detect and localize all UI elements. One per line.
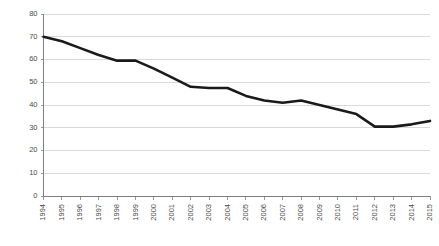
x-axis-tick-label: 2013 — [388, 204, 397, 221]
x-axis-tickmarks — [44, 196, 431, 200]
x-axis-tick-label: 1995 — [57, 204, 66, 221]
y-axis-tick-label: 80 — [29, 9, 37, 18]
x-axis-tick-label: 2006 — [259, 204, 268, 221]
x-axis-tick-label: 1996 — [75, 204, 84, 221]
chart-canvas: 01020304050607080 1994199519961997199819… — [0, 0, 439, 246]
x-axis-tick-label: 2012 — [370, 204, 379, 221]
y-axis-tick-label: 30 — [29, 123, 37, 132]
x-axis-tick-label: 2000 — [149, 204, 158, 221]
y-axis-tick-label: 0 — [33, 191, 37, 200]
x-axis-tick-label: 2015 — [425, 204, 434, 221]
x-axis-tick-label: 2011 — [351, 204, 360, 220]
x-axis-tick-label: 2005 — [241, 204, 250, 221]
x-axis-tick-label: 2007 — [278, 204, 287, 221]
x-axis-tick-label: 1999 — [131, 204, 140, 221]
x-axis-tick-label: 2008 — [296, 204, 305, 221]
gridlines — [44, 14, 431, 196]
x-axis-tick-label: 2004 — [223, 204, 232, 221]
x-axis-tick-label: 2002 — [186, 204, 195, 221]
x-axis-tick-label: 1998 — [112, 204, 121, 221]
x-axis-tick-label: 2001 — [167, 204, 176, 221]
x-axis-tick-label: 2014 — [407, 204, 416, 221]
y-axis-tick-label: 60 — [29, 54, 37, 63]
x-axis-tick-labels: 1994199519961997199819992000200120022003… — [38, 204, 434, 221]
data-series-line — [44, 37, 431, 127]
x-axis-tick-label: 1994 — [38, 204, 47, 221]
x-axis-tick-label: 2009 — [315, 204, 324, 221]
y-axis-tick-labels: 01020304050607080 — [29, 9, 37, 200]
y-axis-tick-label: 10 — [29, 168, 37, 177]
y-axis-tick-label: 70 — [29, 32, 37, 41]
y-axis-tick-label: 20 — [29, 145, 37, 154]
x-axis-tick-label: 2010 — [333, 204, 342, 221]
line-chart: 01020304050607080 1994199519961997199819… — [0, 0, 439, 246]
y-axis-tick-label: 50 — [29, 77, 37, 86]
x-axis-tick-label: 1997 — [94, 204, 103, 221]
y-axis-tick-label: 40 — [29, 100, 37, 109]
x-axis-tick-label: 2003 — [204, 204, 213, 221]
